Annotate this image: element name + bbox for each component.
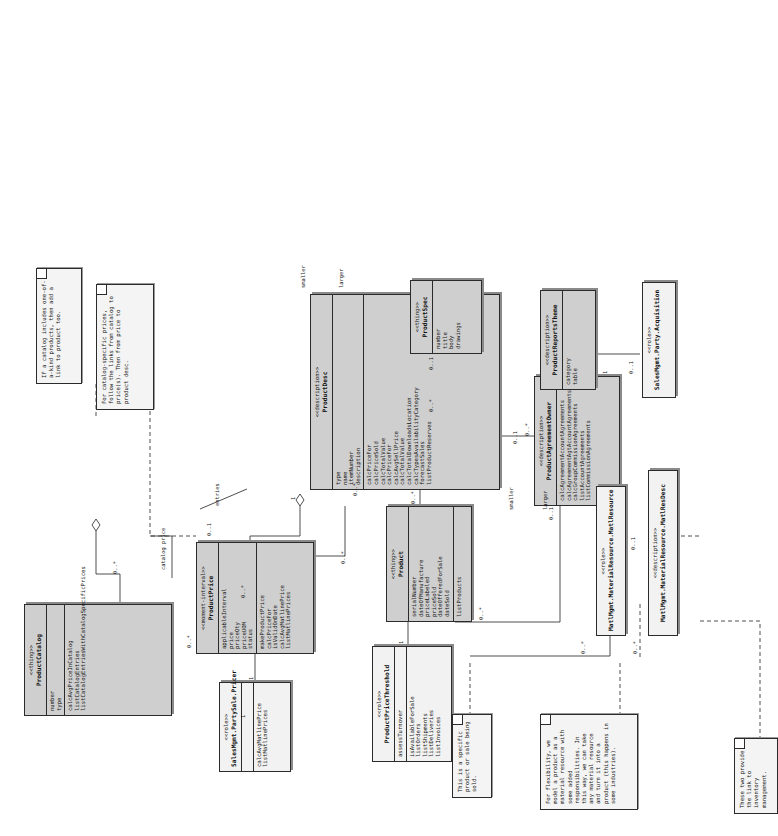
class-product[interactable]: <<thing>> Product serialNumber dateOfMan… [386,506,472,622]
operation: calcPriceFor [386,299,393,485]
class-product-price[interactable]: <<moment-interval>> ProductPrice applica… [196,542,314,654]
note-text: For flexibility, we model a product as a… [545,723,616,804]
attribute: priceUOM [241,547,248,649]
attribute: applicableInterval [221,547,228,649]
class-name: ProductDesc [321,299,329,485]
note-catalog-prices: For catalog-specific prices, follow the … [96,284,154,410]
multiplicity: 0..1 [428,357,434,370]
operation: listProducts [456,511,463,617]
class-header: <<description>> ProductReportsTheme [541,291,562,389]
attribute-compartment: number type [46,605,64,715]
multiplicity: 0..* [112,561,118,574]
attribute: number [49,609,56,711]
class-header: <<moment-interval>> ProductPrice [197,543,218,653]
operation: calcAgreementAccountAgreements [559,381,566,501]
class-header: <<role>> ProductPriceThreshold [373,647,394,761]
multiplicity: 0..* [478,607,484,620]
class-name: ProductReportsTheme [551,295,559,385]
note-text: For catalog-specific prices, follow the … [101,296,129,404]
multiplicity: 0..* [632,641,638,654]
class-salesmgmt-partysale-pricer[interactable]: <<role>> SalesMgmt.PartySale.Pricer calc… [219,682,291,772]
multiplicity: 1 [602,371,608,374]
multiplicity: 0..* [186,635,192,648]
attribute: dateSold [444,511,451,617]
operation: calcGroupCommissionAgreements [572,381,579,501]
note-text: These two provide the link to inventory … [739,751,767,808]
multiplicity: 1 [240,715,246,718]
class-name: ProductCatalog [35,609,43,711]
class-product-price-threshold[interactable]: <<role>> ProductPriceThreshold assessTur… [372,646,452,762]
operation: calcAvgMatlinePrice [279,547,286,649]
class-header: <<thing>> ProductSpec [411,281,432,353]
multiplicity: 1 [290,497,296,500]
class-matlmgmt-material-resource[interactable]: <<role>> MatlMgmt.MaterialResource.MatlR… [596,486,626,636]
class-name: SalesMgmt.PartySale.Pricer [230,687,238,767]
operation: listShipments [422,651,429,757]
attribute-compartment: number title body drawings [432,281,463,353]
multiplicity: 0..* [340,551,346,564]
class-header: <<role>> MatlMgmt.MaterialResource.MatlR… [597,487,618,635]
operation-compartment: calcAvgPriceInCatalog listCatalogEntries… [64,605,89,715]
attribute: type [335,299,342,485]
operation: listInvoices [435,651,442,757]
edge-label-entries: entries [214,483,220,506]
note-fold-icon [37,269,47,279]
class-name: MatlMgmt.MaterialResource.MatlResource [607,491,615,631]
operation: listDeliveries [428,651,435,757]
note-specific-product: This is a specific product or sale being… [452,714,492,798]
class-name: SalesMgmt.Party.Acquisition [653,287,661,393]
note-fold-icon [541,715,551,725]
class-salesmgmt-party-acquisition[interactable]: <<role>> SalesMgmt.Party.Acquisition [642,282,676,398]
note-text: If a catalog includes one-of-a-kind prod… [41,280,61,378]
attribute: itemNumber [348,299,355,485]
class-header: <<description>> ProductDesc [311,295,332,489]
class-product-reports-theme[interactable]: <<description>> ProductReportsTheme cate… [540,290,596,390]
attribute-compartment: category table [562,291,580,389]
class-product-spec[interactable]: <<thing>> ProductSpec number title body … [410,280,482,354]
class-name: Product [397,511,405,617]
attribute: category [565,295,572,385]
class-name: ProductPriceThreshold [383,651,391,757]
class-stereotype: <<moment-interval>> [200,547,207,649]
class-stereotype: <<thing>> [28,609,35,711]
note-text: This is a specific product or sale being… [457,721,477,792]
attribute: status [247,547,254,649]
class-matlmgmt-material-resource-desc[interactable]: <<description>> MatlMgmt.MaterialResourc… [648,470,678,636]
operation: listOrders [415,651,422,757]
operation-compartment: calcAvgMatlinePrice listMatlinePrices [253,683,271,771]
multiplicity: 0..* [428,399,434,412]
multiplicity: 0..* [352,483,358,496]
class-stereotype: <<thing>> [414,285,421,349]
attribute: description [355,299,362,485]
class-product-catalog[interactable]: <<thing>> ProductCatalog number type cal… [24,604,172,716]
class-header: <<role>> SalesMgmt.Party.Acquisition [643,283,664,397]
attribute-compartment [241,683,253,771]
operation-compartment: listProducts [453,507,465,621]
operation: calcPriceSold [373,299,380,485]
attribute-compartment: serialNumber dateOfManufacture priceLabe… [408,507,453,621]
multiplicity: 0..1 [206,523,212,536]
multiplicity: 0..1 [628,361,634,374]
attribute: body [448,285,455,349]
operation: calcTotalValue [380,299,387,485]
multiplicity: 0..* [524,423,530,436]
class-header: <<description>> ProductAgreementOwner [535,377,556,505]
class-header: <<thing>> ProductCatalog [25,605,46,715]
operation: makeProductPrice [259,547,266,649]
operation: calcTotalValue [399,299,406,485]
note-fold-icon [97,285,107,295]
attribute: assessTurnover [397,651,404,757]
attribute-compartment: type name itemNumber description [332,295,363,489]
class-name: ProductSpec [421,285,429,349]
operation: calcPriceFor [266,547,273,649]
class-name: ProductPrice [207,547,215,649]
operation: listMatlinePrices [285,547,292,649]
operation: listCommissionAgreements [585,381,592,501]
multiplicity: 1 [398,641,404,644]
operation: listMatlinePrices [262,687,269,767]
multiplicity: 0..* [240,585,246,598]
operation: isValidOnDate [272,547,279,649]
class-header: <<description>> MatlMgmt.MaterialResourc… [649,471,670,635]
attribute: drawings [455,285,462,349]
